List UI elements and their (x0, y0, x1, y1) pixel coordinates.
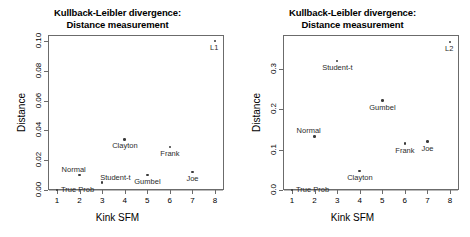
y-axis-tick-label: 0.3 (269, 56, 278, 82)
x-axis-tick-label: 1 (282, 196, 302, 205)
x-axis-tick-label: 2 (70, 196, 90, 205)
data-point-label: True Prob (61, 185, 94, 194)
x-axis-tick (337, 190, 338, 194)
y-axis-tick (44, 190, 48, 191)
plot-area (283, 35, 459, 190)
data-point-label: Student-t (100, 173, 130, 182)
y-axis-tick-label: 0.1 (269, 136, 278, 162)
y-axis-title: Distance (16, 52, 27, 172)
x-axis-tick-label: 4 (115, 196, 135, 205)
y-axis-title: Distance (251, 52, 262, 172)
data-point-label: L2 (445, 44, 453, 53)
data-point-label: Joe (186, 174, 198, 183)
y-axis-tick-label: 0.0 (269, 177, 278, 203)
y-axis-tick (279, 69, 283, 70)
chart-title: Kullback-Leibler divergence: Distance me… (235, 7, 470, 30)
y-axis-tick (279, 109, 283, 110)
x-axis-tick (360, 190, 361, 194)
data-point-label: True Prob (296, 185, 329, 194)
x-axis-tick-label: 8 (205, 196, 225, 205)
data-point-label: Normal (62, 165, 86, 174)
x-axis-tick (382, 190, 383, 194)
x-axis-tick (405, 190, 406, 194)
x-axis-tick (170, 190, 171, 194)
x-axis-tick (450, 190, 451, 194)
y-axis-tick (279, 190, 283, 191)
data-point-label: Frank (160, 149, 179, 158)
x-axis-title: Kink SFM (0, 212, 235, 223)
x-axis-tick (147, 190, 148, 194)
x-axis-tick-label: 8 (440, 196, 460, 205)
data-point (426, 140, 429, 143)
data-point-label: Student-t (322, 63, 352, 72)
x-axis-title: Kink SFM (235, 212, 470, 223)
x-axis-tick-label: 6 (395, 196, 415, 205)
y-axis-tick-label: 0.00 (34, 177, 43, 203)
x-axis-tick (192, 190, 193, 194)
data-point-label: Frank (395, 146, 414, 155)
figure-canvas: Kullback-Leibler divergence: Distance me… (0, 0, 470, 237)
x-axis-tick-label: 3 (92, 196, 112, 205)
x-axis-tick-label: 6 (160, 196, 180, 205)
x-axis-tick (102, 190, 103, 194)
data-point-label: Clayton (347, 173, 372, 182)
chart-panel-right: Kullback-Leibler divergence: Distance me… (235, 0, 470, 237)
y-axis-tick (279, 150, 283, 151)
data-point (381, 99, 384, 102)
x-axis-tick (125, 190, 126, 194)
x-axis-tick-label: 5 (137, 196, 157, 205)
y-axis-tick (44, 130, 48, 131)
chart-panel-left: Kullback-Leibler divergence: Distance me… (0, 0, 235, 237)
data-point (313, 135, 316, 138)
data-point (169, 146, 172, 149)
x-axis-tick-label: 1 (47, 196, 67, 205)
x-axis-tick-label: 4 (350, 196, 370, 205)
data-point-label: L1 (210, 43, 218, 52)
y-axis-tick-label: 0.02 (34, 147, 43, 173)
y-axis-tick-label: 0.10 (34, 27, 43, 53)
data-point (146, 174, 149, 177)
data-point (404, 142, 407, 145)
data-point-label: Normal (297, 126, 321, 135)
y-axis-tick-label: 0.06 (34, 87, 43, 113)
x-axis-tick (215, 190, 216, 194)
x-axis-tick (427, 190, 428, 194)
data-point-label: Gumbel (134, 177, 160, 186)
x-axis-tick-label: 2 (305, 196, 325, 205)
y-axis-tick (44, 71, 48, 72)
x-axis-tick-label: 3 (327, 196, 347, 205)
y-axis-tick-label: 0.08 (34, 57, 43, 83)
y-axis-tick (44, 101, 48, 102)
data-point (123, 138, 126, 141)
x-axis-tick-label: 5 (372, 196, 392, 205)
y-axis-tick (44, 160, 48, 161)
x-axis-tick-label: 7 (417, 196, 437, 205)
x-axis-tick-label: 7 (182, 196, 202, 205)
data-point-label: Gumbel (369, 103, 395, 112)
data-point-label: Clayton (112, 141, 137, 150)
y-axis-tick-label: 0.2 (269, 96, 278, 122)
y-axis-tick-label: 0.04 (34, 117, 43, 143)
data-point-label: Joe (421, 144, 433, 153)
y-axis-tick (44, 41, 48, 42)
